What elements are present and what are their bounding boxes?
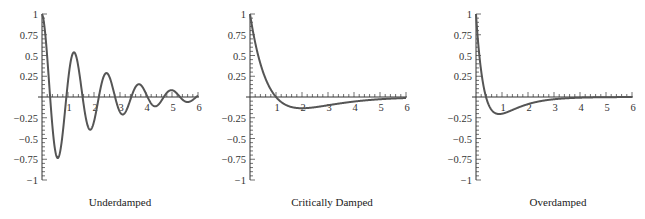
y-tick-label: −0.25 [14, 113, 38, 124]
x-tick-label: 6 [196, 102, 201, 113]
caption-critically-damped: Critically Damped [252, 196, 412, 208]
x-tick-label: 4 [144, 102, 150, 113]
y-tick-label: 1 [241, 9, 246, 20]
x-tick-label: 1 [274, 102, 279, 113]
x-tick-label: 5 [604, 102, 609, 113]
y-tick-label: 0.5 [233, 51, 246, 62]
y-tick-label: −0.5 [453, 134, 472, 145]
y-tick-label: 0.75 [20, 30, 38, 41]
x-tick-label: 3 [552, 102, 557, 113]
y-tick-label: −0.25 [448, 113, 472, 124]
response-curve [42, 14, 198, 158]
x-tick-label: 3 [326, 102, 331, 113]
x-tick-label: 6 [404, 102, 409, 113]
y-tick-label: 1 [467, 9, 472, 20]
y-tick-label: −1 [461, 175, 472, 186]
chart-overdamped: 10.750.50.25−0.25−0.5−0.75−1123456 [448, 9, 636, 186]
y-tick-label: −0.75 [222, 154, 246, 165]
x-tick-label: 6 [630, 102, 635, 113]
y-tick-label: −0.25 [222, 113, 246, 124]
chart-underdamped: 10.750.50.25−0.25−0.5−0.75−1123456 [14, 9, 202, 186]
y-tick-label: 0.5 [25, 51, 38, 62]
x-tick-label: 1 [66, 102, 71, 113]
y-tick-label: −0.5 [19, 134, 38, 145]
chart-critically-damped: 10.750.50.25−0.25−0.5−0.75−1123456 [222, 9, 410, 186]
y-tick-label: 0.75 [228, 30, 246, 41]
y-tick-label: −0.75 [14, 154, 38, 165]
response-curve [476, 14, 632, 114]
y-tick-label: −0.5 [227, 134, 246, 145]
y-tick-label: −1 [27, 175, 38, 186]
y-tick-label: 1 [33, 9, 38, 20]
x-tick-label: 1 [500, 102, 505, 113]
caption-underdamped: Underdamped [40, 196, 200, 208]
y-tick-label: 0.25 [228, 71, 246, 82]
x-tick-label: 5 [170, 102, 175, 113]
y-tick-label: 0.25 [20, 71, 38, 82]
caption-overdamped: Overdamped [478, 196, 638, 208]
y-tick-label: 0.75 [454, 30, 472, 41]
damping-plots: 10.750.50.25−0.25−0.5−0.75−112345610.750… [0, 0, 645, 219]
y-tick-label: −0.75 [448, 154, 472, 165]
y-tick-label: 0.5 [459, 51, 472, 62]
x-tick-label: 5 [378, 102, 383, 113]
x-tick-label: 4 [578, 102, 584, 113]
y-tick-label: 0.25 [454, 71, 472, 82]
y-tick-label: −1 [235, 175, 246, 186]
x-tick-label: 4 [352, 102, 358, 113]
